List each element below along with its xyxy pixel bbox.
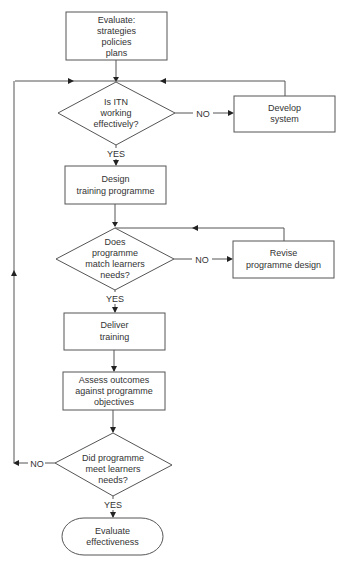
match-decision-line-2: programme — [92, 248, 138, 258]
arrow-down-icon — [110, 512, 116, 518]
assess-outcomes-line-3: objectives — [94, 397, 135, 407]
deliver-training-box: Deliver training — [64, 313, 165, 350]
itn-yes-label: YES — [107, 149, 125, 159]
flowchart-canvas: Evaluate: strategies policies plans Is I… — [0, 0, 345, 563]
evaluate-effectiveness-line-1: Evaluate — [95, 526, 130, 536]
arrow-left-icon — [160, 78, 166, 84]
assess-outcomes-line-1: Assess outcomes — [79, 375, 150, 385]
arrow-down-icon — [110, 427, 116, 433]
arrow-down-icon — [111, 366, 117, 372]
assess-outcomes-box: Assess outcomes against programme object… — [63, 372, 165, 410]
revise-design-box: Revise programme design — [233, 241, 334, 278]
evaluate-effectiveness-line-2: effectiveness — [86, 537, 139, 547]
arrow-down-icon — [113, 160, 119, 166]
design-training-line-2: training programme — [76, 186, 154, 196]
revise-design-line-1: Revise — [270, 248, 298, 258]
evaluate-strategies-line-4: plans — [106, 48, 128, 58]
arrow-right-icon — [227, 256, 233, 262]
design-training-line-1: Design — [101, 174, 129, 184]
develop-system-box: Develop system — [234, 96, 335, 132]
develop-system-line-1: Develop — [268, 103, 301, 113]
evaluate-strategies-line-1: Evaluate: — [98, 15, 136, 25]
evaluate-strategies-box: Evaluate: strategies policies plans — [66, 12, 167, 60]
meet-yes-label: YES — [104, 500, 122, 510]
itn-decision-line-1: Is ITN — [104, 97, 128, 107]
itn-decision-line-2: working — [99, 108, 131, 118]
match-decision-line-4: needs? — [100, 270, 130, 280]
meet-decision-line-3: needs? — [98, 475, 128, 485]
meet-decision-line-1: Did programme — [82, 453, 144, 463]
match-decision-diamond: Does programme match learners needs? — [56, 228, 174, 290]
deliver-training-line-2: training — [100, 332, 130, 342]
arrow-right-icon — [228, 110, 234, 116]
evaluate-strategies-line-3: policies — [101, 37, 132, 47]
arrow-up-icon — [11, 270, 17, 276]
itn-decision-diamond: Is ITN working effectively? — [58, 82, 175, 145]
design-training-box: Design training programme — [65, 166, 166, 204]
itn-no-label: NO — [196, 109, 210, 119]
meet-decision-diamond: Did programme meet learners needs? — [55, 433, 172, 496]
match-no-label: NO — [195, 255, 209, 265]
arrow-left-icon — [192, 225, 198, 231]
assess-outcomes-line-2: against programme — [75, 386, 153, 396]
meet-no-label: NO — [30, 459, 44, 469]
evaluate-effectiveness-terminator: Evaluate effectiveness — [62, 518, 163, 555]
deliver-training-line-1: Deliver — [100, 320, 128, 330]
match-decision-line-3: match learners — [85, 259, 145, 269]
evaluate-strategies-line-2: strategies — [97, 26, 137, 36]
match-yes-label: YES — [106, 294, 124, 304]
arrow-down-icon — [112, 307, 118, 313]
revise-design-line-2: programme design — [246, 260, 321, 270]
arrow-down-icon — [112, 222, 118, 227]
develop-system-line-2: system — [270, 114, 299, 124]
itn-decision-line-3: effectively? — [94, 119, 139, 129]
meet-decision-line-2: meet learners — [85, 464, 141, 474]
arrow-right-icon — [68, 78, 74, 84]
match-decision-line-1: Does — [104, 237, 126, 247]
